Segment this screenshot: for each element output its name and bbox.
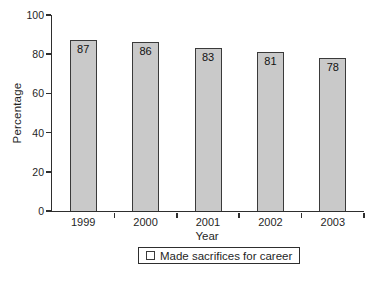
- bar-value-label: 87: [71, 43, 96, 55]
- y-axis-tick-label: 60: [8, 87, 44, 99]
- x-axis-tick-label: 2000: [114, 216, 176, 228]
- bar-2000: 86: [132, 42, 159, 211]
- y-axis-tick-label: 80: [8, 48, 44, 60]
- x-axis-title: Year: [51, 230, 363, 242]
- x-axis-tick-label: 2002: [239, 216, 301, 228]
- bar-value-label: 78: [320, 61, 345, 73]
- legend-label: Made sacrifices for career: [160, 250, 292, 262]
- x-axis-tick: [363, 213, 365, 218]
- bar-value-label: 83: [196, 51, 221, 63]
- plot-area: 0204060801008719998620008320018120027820…: [51, 15, 364, 212]
- y-axis-tick: [46, 210, 51, 212]
- x-axis-tick-label: 2001: [177, 216, 239, 228]
- y-axis-tick-label: 40: [8, 127, 44, 139]
- bar-2002: 81: [257, 52, 284, 211]
- y-axis-tick: [46, 93, 51, 95]
- y-axis-tick-label: 100: [8, 9, 44, 21]
- bar-value-label: 81: [258, 55, 283, 67]
- y-axis-tick-label: 20: [8, 166, 44, 178]
- y-axis-tick: [46, 53, 51, 55]
- y-axis-tick-label: 0: [8, 205, 44, 217]
- y-axis-tick: [46, 171, 51, 173]
- bar-chart: Percentage 02040608010087199986200083200…: [0, 0, 380, 281]
- bar-2001: 83: [195, 48, 222, 211]
- bar-2003: 78: [319, 58, 346, 211]
- legend: Made sacrifices for career: [138, 247, 300, 264]
- y-axis-tick: [46, 132, 51, 134]
- x-axis-tick-label: 1999: [52, 216, 114, 228]
- bar-1999: 87: [70, 40, 97, 211]
- bar-value-label: 86: [133, 45, 158, 57]
- y-axis-tick: [46, 14, 51, 16]
- legend-swatch-icon: [146, 251, 155, 260]
- x-axis-tick-label: 2003: [302, 216, 364, 228]
